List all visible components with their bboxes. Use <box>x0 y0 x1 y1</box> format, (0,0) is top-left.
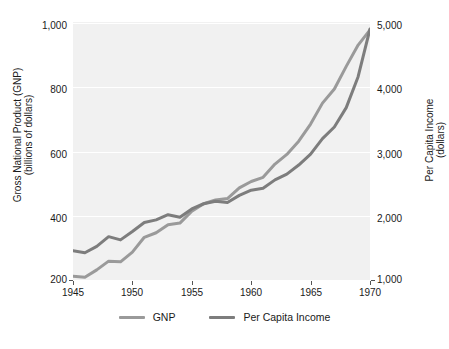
y2tick-label-2000: 2,000 <box>377 214 427 224</box>
xtick-mark-1945 <box>73 281 74 285</box>
y2tick-label-5000: 5,000 <box>377 21 427 31</box>
xtick-label-1970: 1970 <box>350 288 390 298</box>
legend-item-gnp[interactable]: GNP <box>119 312 176 323</box>
legend-label-per-capita-income: Per Capita Income <box>243 312 330 323</box>
ytick-label-200: 200 <box>22 275 67 285</box>
gnp-per-capita-income-chart: 1,000 800 600 400 200 5,000 4,000 3,000 … <box>0 0 449 349</box>
plot-area <box>73 22 370 281</box>
y2-axis-title: Per Capita Income (dollars) <box>424 60 446 220</box>
y-axis-title-line1: Gross National Product (GNP) <box>12 20 23 250</box>
xtick-label-1945: 1945 <box>53 288 93 298</box>
xtick-mark-1965 <box>311 281 312 285</box>
y2tick-label-3000: 3,000 <box>377 150 427 160</box>
legend-swatch-per-capita-income <box>209 316 235 319</box>
y2-axis-title-line2: (dollars) <box>435 60 446 220</box>
legend-item-per-capita-income[interactable]: Per Capita Income <box>209 312 330 323</box>
y-axis-title: Gross National Product (GNP) (billions o… <box>12 20 34 250</box>
xtick-mark-1950 <box>132 281 133 285</box>
chart-legend: GNP Per Capita Income <box>0 312 449 323</box>
xtick-mark-1960 <box>251 281 252 285</box>
legend-label-gnp: GNP <box>153 312 176 323</box>
y2-axis-title-line1: Per Capita Income <box>424 60 435 220</box>
y2tick-label-1000: 1,000 <box>377 275 427 285</box>
xtick-mark-1955 <box>192 281 193 285</box>
xtick-mark-1970 <box>370 281 371 285</box>
xtick-label-1955: 1955 <box>172 288 212 298</box>
xtick-label-1950: 1950 <box>112 288 152 298</box>
xtick-label-1965: 1965 <box>291 288 331 298</box>
legend-swatch-gnp <box>119 316 145 319</box>
series-lines <box>73 22 370 281</box>
xtick-label-1960: 1960 <box>231 288 271 298</box>
y2tick-label-4000: 4,000 <box>377 85 427 95</box>
y2tick-mark-1000 <box>371 280 375 281</box>
per-capita-income-line <box>73 29 370 253</box>
y-axis-title-line2: (billions of dollars) <box>23 20 34 250</box>
